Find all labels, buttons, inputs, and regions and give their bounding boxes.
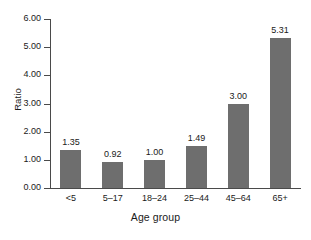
y-tick-label: 5.00 [23, 41, 41, 52]
y-axis-tick: 4.00 [0, 75, 50, 76]
x-axis-title: Age group [0, 211, 311, 223]
bar-group: 5.31 [270, 19, 291, 188]
y-tick-label: 1.00 [23, 154, 41, 165]
bar-group: 3.00 [228, 19, 249, 188]
plot-area: 1.350.921.001.493.005.31 [50, 19, 301, 188]
bar-value-label: 1.00 [133, 147, 176, 158]
bar[interactable] [102, 162, 123, 188]
y-axis-tick: 1.00 [0, 160, 50, 161]
bar-value-label: 1.49 [175, 133, 218, 144]
bar-value-label: 5.31 [259, 25, 302, 36]
bar-value-label: 0.92 [91, 149, 134, 160]
x-tick-label: 65+ [250, 193, 310, 204]
x-axis-line [44, 188, 301, 189]
bar[interactable] [270, 38, 291, 188]
y-tick-mark [44, 188, 50, 189]
y-axis-tick: 2.00 [0, 132, 50, 133]
y-tick-label: 3.00 [23, 98, 41, 109]
y-axis-tick: 5.00 [0, 47, 50, 48]
y-axis-title: Ratio [12, 70, 23, 130]
bar[interactable] [144, 160, 165, 188]
y-tick-label: 2.00 [23, 126, 41, 137]
bar-value-label: 3.00 [217, 91, 260, 102]
y-axis-tick: 3.00 [0, 104, 50, 105]
y-axis-tick: 0.00 [0, 188, 50, 189]
y-tick-label: 4.00 [23, 69, 41, 80]
bar[interactable] [228, 104, 249, 189]
y-tick-label: 0.00 [23, 182, 41, 193]
bar-group: 1.00 [144, 19, 165, 188]
bar-value-label: 1.35 [49, 137, 92, 148]
bar-chart-figure: Ratio 0.001.002.003.004.005.006.00 1.350… [0, 0, 311, 240]
y-tick-label: 6.00 [23, 13, 41, 24]
bar[interactable] [186, 146, 207, 188]
bar-group: 0.92 [102, 19, 123, 188]
bar-group: 1.35 [60, 19, 81, 188]
y-axis-tick: 6.00 [0, 19, 50, 20]
bar[interactable] [60, 150, 81, 188]
bar-group: 1.49 [186, 19, 207, 188]
